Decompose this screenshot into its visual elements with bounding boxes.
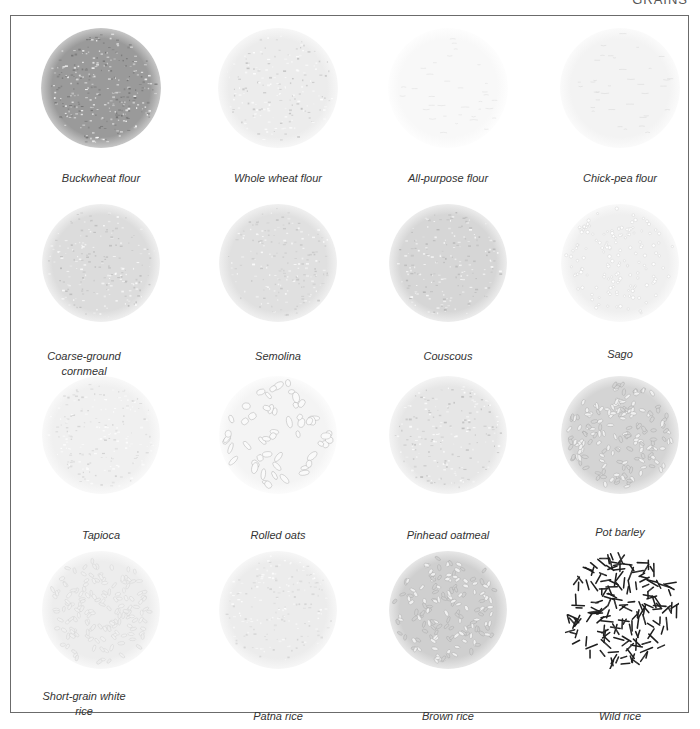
grain-item: All-purpose flour bbox=[371, 28, 541, 198]
grain-item: Coarse-ground cornmeal bbox=[24, 204, 194, 374]
grain-item: Semolina bbox=[201, 204, 371, 374]
grain-pile-image bbox=[219, 376, 337, 494]
grain-texture bbox=[219, 551, 337, 669]
grain-caption: Couscous bbox=[363, 349, 533, 364]
grain-item: Brown rice bbox=[371, 551, 541, 721]
grain-pile-image bbox=[561, 204, 679, 322]
grain-texture bbox=[41, 28, 161, 148]
grain-item: Rolled oats bbox=[201, 376, 371, 546]
section-header-label: GRAINS bbox=[632, 0, 688, 7]
grain-caption: Short-grain white rice bbox=[34, 689, 134, 719]
grain-item: Sago bbox=[543, 204, 700, 374]
grain-texture bbox=[42, 376, 160, 494]
grain-pile-image bbox=[42, 551, 160, 669]
grain-caption: Rolled oats bbox=[193, 528, 363, 543]
grain-pile-image bbox=[389, 551, 507, 669]
grain-caption: Wild rice bbox=[535, 709, 700, 724]
grain-caption: Brown rice bbox=[363, 709, 533, 724]
grain-pile-image bbox=[41, 28, 161, 148]
grain-texture bbox=[389, 376, 507, 494]
grain-texture bbox=[42, 551, 160, 669]
grain-caption: Chick-pea flour bbox=[535, 171, 700, 186]
grain-texture bbox=[560, 28, 680, 148]
grain-plate-frame: Buckwheat flourWhole wheat flourAll-purp… bbox=[10, 15, 689, 713]
grain-item: Buckwheat flour bbox=[24, 28, 194, 198]
grain-pile-image bbox=[389, 204, 507, 322]
grain-texture bbox=[42, 204, 160, 322]
grain-texture bbox=[219, 204, 337, 322]
grain-caption: Semolina bbox=[193, 349, 363, 364]
grain-texture bbox=[388, 28, 508, 148]
grain-caption: Patna rice bbox=[193, 709, 363, 724]
grain-pile-image bbox=[389, 376, 507, 494]
grain-item: Pinhead oatmeal bbox=[371, 376, 541, 546]
grain-caption: Whole wheat flour bbox=[193, 171, 363, 186]
grain-texture bbox=[389, 551, 507, 669]
grain-pile-image bbox=[219, 551, 337, 669]
grain-pile-image bbox=[218, 28, 338, 148]
grain-item: Couscous bbox=[371, 204, 541, 374]
grain-caption: Sago bbox=[535, 347, 700, 362]
grain-pile-image bbox=[219, 204, 337, 322]
grain-item: Patna rice bbox=[201, 551, 371, 721]
grain-pile-image bbox=[561, 376, 679, 494]
grain-caption: Pinhead oatmeal bbox=[363, 528, 533, 543]
grain-texture bbox=[218, 28, 338, 148]
grain-item: Short-grain white rice bbox=[24, 551, 194, 721]
grain-caption: Buckwheat flour bbox=[16, 171, 186, 186]
grain-pile-image bbox=[560, 28, 680, 148]
grain-item: Tapioca bbox=[24, 376, 194, 546]
grain-pile-image bbox=[42, 204, 160, 322]
grain-texture bbox=[219, 376, 337, 494]
grain-texture bbox=[561, 551, 679, 669]
grain-item: Wild rice bbox=[543, 551, 700, 721]
grain-caption: Pot barley bbox=[535, 525, 700, 540]
grain-item: Pot barley bbox=[543, 376, 700, 546]
grain-pile-image bbox=[561, 551, 679, 669]
grain-texture bbox=[389, 204, 507, 322]
grain-caption: All-purpose flour bbox=[363, 171, 533, 186]
grain-pile-image bbox=[42, 376, 160, 494]
grain-texture bbox=[561, 376, 679, 494]
grain-pile-image bbox=[388, 28, 508, 148]
grain-caption: Tapioca bbox=[16, 528, 186, 543]
grain-texture bbox=[561, 204, 679, 322]
grain-item: Whole wheat flour bbox=[201, 28, 371, 198]
grain-item: Chick-pea flour bbox=[543, 28, 700, 198]
grain-caption: Coarse-ground cornmeal bbox=[24, 349, 144, 379]
